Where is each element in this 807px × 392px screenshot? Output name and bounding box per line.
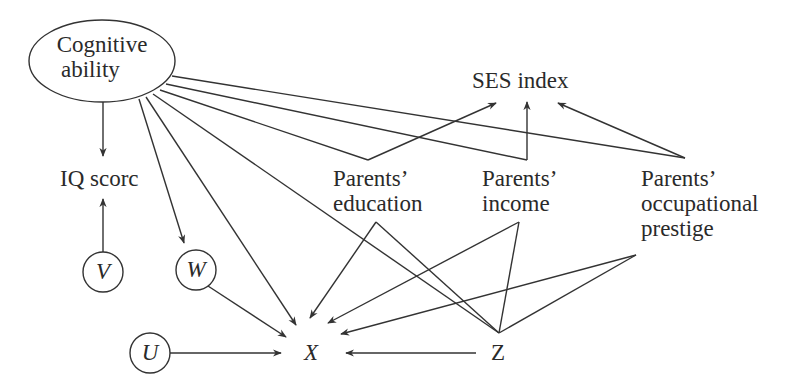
parents-income-line1: Parents’ xyxy=(482,166,557,191)
parents-occupational-line2: occupational xyxy=(641,191,759,216)
ses-index-node: SES index xyxy=(472,68,568,93)
parents-occupational-line3: prestige xyxy=(641,216,759,241)
edge-cognitive-to-occupational xyxy=(172,76,685,158)
edge-cognitive-to-education xyxy=(160,90,368,160)
parents-education-node: Parents’ education xyxy=(333,166,422,216)
cognitive-ability-line1: Cognitive xyxy=(40,32,164,57)
edge-education-to-z xyxy=(376,222,499,333)
edge-occupational-to-x xyxy=(341,255,636,334)
edge-education-to-ses xyxy=(368,103,496,160)
u-node: U xyxy=(135,340,165,365)
edge-cognitive-to-x xyxy=(146,97,296,325)
edge-w-to-x xyxy=(208,286,286,337)
v-node: V xyxy=(88,259,118,284)
parents-education-line2: education xyxy=(333,191,422,216)
x-node: X xyxy=(298,340,324,365)
edge-income-to-x xyxy=(328,222,519,323)
edge-cognitive-to-income xyxy=(166,84,527,160)
z-node: Z xyxy=(485,340,511,365)
iq-score-node: IQ scorc xyxy=(60,166,139,191)
parents-occupational-prestige-node: Parents’ occupational prestige xyxy=(641,166,759,241)
cognitive-ability-node: Cognitive ability xyxy=(40,32,164,82)
edge-occupational-to-ses xyxy=(558,103,685,158)
cognitive-ability-line2: ability xyxy=(40,57,164,82)
parents-education-line1: Parents’ xyxy=(333,166,422,191)
edge-occupational-to-z xyxy=(499,255,636,333)
edge-cognitive-to-z xyxy=(153,94,499,333)
parents-income-line2: income xyxy=(482,191,557,216)
w-node: W xyxy=(180,257,212,282)
parents-income-node: Parents’ income xyxy=(482,166,557,216)
edge-income-to-z xyxy=(499,222,519,333)
parents-occupational-line1: Parents’ xyxy=(641,166,759,191)
